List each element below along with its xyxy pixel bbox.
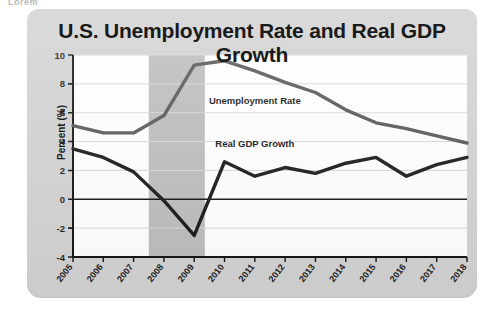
y-tick-label: 8 [60, 78, 65, 89]
x-tick-label-group: 2011 [237, 262, 257, 284]
x-tick-label: 2010 [206, 262, 226, 284]
x-tick-label: 2006 [85, 262, 105, 284]
real-gdp-growth-label: Real GDP Growth [215, 138, 294, 149]
y-tick-label: -4 [57, 252, 66, 263]
x-tick-label: 2016 [388, 262, 408, 284]
x-tick-label-group: 2009 [176, 262, 196, 284]
x-tick-label-group: 2012 [267, 262, 287, 284]
x-tick-label: 2018 [448, 262, 468, 284]
x-tick-label: 2009 [176, 262, 196, 284]
x-tick-label-group: 2018 [448, 262, 468, 284]
y-axis-label: Percent (%) [56, 93, 67, 173]
x-tick-label: 2011 [237, 262, 257, 284]
x-tick-label: 2007 [115, 262, 135, 284]
x-tick-label-group: 2005 [54, 262, 74, 284]
plot-background [73, 55, 467, 257]
chart-title: U.S. Unemployment Rate and Real GDP Grow… [27, 19, 477, 67]
y-tick-label: 0 [60, 194, 65, 205]
unemployment-rate-label: Unemployment Rate [209, 95, 301, 106]
x-tick-label: 2015 [357, 262, 377, 284]
x-tick-label: 2017 [418, 262, 438, 284]
x-tick-label-group: 2014 [327, 262, 347, 284]
x-tick-label-group: 2017 [418, 262, 438, 284]
x-tick-label-group: 2010 [206, 262, 226, 284]
clipped-header-strip: Lorem [0, 0, 485, 9]
x-tick-label-group: 2015 [357, 262, 377, 284]
x-tick-label-group: 2016 [388, 262, 408, 284]
x-tick-label: 2013 [297, 262, 317, 284]
y-tick-label: -2 [57, 223, 65, 234]
x-tick-label-group: 2008 [145, 262, 165, 284]
x-tick-label: 2005 [54, 262, 74, 284]
x-tick-label-group: 2007 [115, 262, 135, 284]
chart-card: U.S. Unemployment Rate and Real GDP Grow… [27, 9, 477, 297]
x-tick-label: 2012 [267, 262, 287, 284]
clipped-header-text: Lorem [8, 0, 38, 7]
x-tick-label: 2014 [327, 262, 347, 284]
x-tick-label: 2008 [145, 262, 165, 284]
x-tick-label-group: 2006 [85, 262, 105, 284]
x-tick-label-group: 2013 [297, 262, 317, 284]
screenshot-root: Lorem U.S. Unemployment Rate and Real GD… [0, 0, 485, 310]
